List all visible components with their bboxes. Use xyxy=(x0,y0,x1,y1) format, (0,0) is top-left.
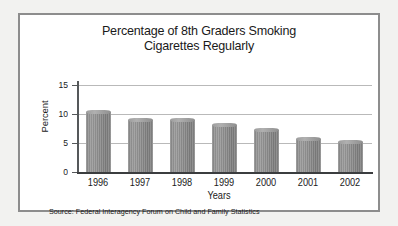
bar-1998 xyxy=(170,120,195,173)
page-background: Percentage of 8th Graders Smoking Cigare… xyxy=(0,0,398,226)
xtick-label-2000: 2000 xyxy=(245,177,287,188)
xtick-label-1996: 1996 xyxy=(77,177,119,188)
plot-area xyxy=(78,81,372,173)
y-axis-line xyxy=(77,81,79,174)
bar-cap-icon xyxy=(338,140,363,144)
y-axis-label: Percent xyxy=(39,87,50,147)
xtick-label-2002: 2002 xyxy=(329,177,371,188)
bar-1999 xyxy=(212,125,237,173)
chart-frame: Percentage of 8th Graders Smoking Cigare… xyxy=(18,13,380,212)
bar-2002 xyxy=(338,142,363,173)
bar-cap-icon xyxy=(170,118,195,122)
bar-2001 xyxy=(296,139,321,173)
bar-2000 xyxy=(254,130,279,173)
bar-1997 xyxy=(128,120,153,173)
xtick-label-2001: 2001 xyxy=(287,177,329,188)
x-axis-label: Years xyxy=(36,190,398,201)
chart-title-line-2: Cigarettes Regularly xyxy=(33,38,366,53)
bar-1996 xyxy=(86,112,111,173)
bar-cap-icon xyxy=(86,110,111,114)
gridline-10 xyxy=(78,114,372,115)
xtick-label-1997: 1997 xyxy=(119,177,161,188)
x-axis-line xyxy=(77,172,373,174)
bar-cap-icon xyxy=(296,137,321,141)
gridline-15 xyxy=(78,85,372,86)
bar-cap-icon xyxy=(212,123,237,127)
chart-title: Percentage of 8th Graders Smoking Cigare… xyxy=(33,23,366,53)
bar-cap-icon xyxy=(128,118,153,122)
xtick-label-1999: 1999 xyxy=(203,177,245,188)
chart-title-line-1: Percentage of 8th Graders Smoking xyxy=(33,23,366,38)
bar-cap-icon xyxy=(254,128,279,132)
xtick-label-1998: 1998 xyxy=(161,177,203,188)
ytick-label-0: 0 xyxy=(41,166,68,177)
source-note: Source: Federal Interagency Forum on Chi… xyxy=(49,207,260,216)
